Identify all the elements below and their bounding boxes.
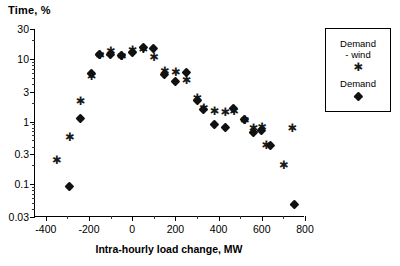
star-marker-icon: ✱ [149, 51, 158, 64]
y-axis-tick [30, 92, 35, 93]
y-axis-minor-tick [32, 131, 35, 132]
x-axis-tick-label: 400 [210, 223, 228, 235]
y-axis-minor-tick [32, 209, 35, 210]
y-axis-minor-tick [32, 103, 35, 104]
x-axis-minor-tick [197, 216, 198, 219]
star-marker-icon: ✱ [76, 95, 85, 108]
legend-item-demand: Demand [326, 78, 390, 102]
x-axis-minor-tick [111, 216, 112, 219]
y-axis-minor-tick [32, 135, 35, 136]
x-axis-title: Intra-hourly load change, MW [34, 243, 304, 255]
y-axis-tick-label: 1 [23, 116, 29, 128]
y-axis-tick-label: 0.1 [14, 178, 29, 190]
y-axis-tick [30, 122, 35, 123]
y-axis-title: Time, % [8, 4, 51, 16]
x-axis-tick [175, 216, 176, 221]
y-axis-minor-tick [32, 140, 35, 141]
x-axis-tick [219, 216, 220, 221]
chart-figure: Time, % 0.030.10.3131030-400-20002004006… [0, 0, 400, 266]
x-axis-tick-label: 800 [296, 223, 314, 235]
plot-area: 0.030.10.3131030-400-2000200400600800✱✱✱… [34, 29, 304, 217]
y-axis-minor-tick [32, 194, 35, 195]
legend-label-demand-wind: Demand - wind [326, 38, 390, 60]
y-axis-tick [30, 184, 35, 185]
x-axis-tick [305, 216, 306, 221]
y-axis-minor-tick [32, 78, 35, 79]
diamond-marker-icon [353, 91, 363, 101]
y-axis-minor-tick [32, 147, 35, 148]
y-axis-tick-label: 0.3 [14, 148, 29, 160]
star-marker-icon: ✱ [354, 61, 363, 74]
diamond-marker-icon [289, 200, 299, 210]
y-axis-minor-tick [32, 165, 35, 166]
x-axis-minor-tick [154, 216, 155, 219]
x-axis-tick-label: 600 [253, 223, 271, 235]
diamond-marker-icon [76, 114, 86, 124]
x-axis-tick-label: 200 [167, 223, 185, 235]
y-axis-minor-tick [32, 62, 35, 63]
y-axis-minor-tick [32, 84, 35, 85]
y-axis-tick-label: 0.03 [9, 211, 29, 223]
y-axis-tick [30, 154, 35, 155]
chart-legend: Demand - wind ✱ Demand [325, 28, 391, 112]
y-axis-minor-tick [32, 69, 35, 70]
x-axis-tick-label: 0 [129, 223, 135, 235]
star-marker-icon: ✱ [52, 154, 61, 167]
legend-label-demand: Demand [326, 78, 390, 89]
legend-marker-star: ✱ [326, 61, 390, 73]
legend-marker-diamond [326, 90, 390, 102]
y-axis-minor-tick [32, 124, 35, 125]
y-axis-tick-label: 3 [23, 86, 29, 98]
x-axis-tick [262, 216, 263, 221]
star-marker-icon: ✱ [279, 159, 288, 172]
x-axis-tick-label: -400 [35, 223, 56, 235]
star-marker-icon: ✱ [288, 122, 297, 135]
diamond-marker-icon [65, 182, 75, 192]
y-axis-tick [30, 59, 35, 60]
x-axis-tick [132, 216, 133, 221]
x-axis-tick [89, 216, 90, 221]
y-axis-tick [30, 217, 35, 218]
y-axis-tick [30, 29, 35, 30]
legend-item-demand-wind: Demand - wind ✱ [326, 38, 390, 73]
x-axis-tick-label: -200 [78, 223, 99, 235]
x-axis-minor-tick [240, 216, 241, 219]
x-axis-minor-tick [283, 216, 284, 219]
y-axis-minor-tick [32, 40, 35, 41]
y-axis-minor-tick [32, 190, 35, 191]
y-axis-minor-tick [32, 65, 35, 66]
y-axis-minor-tick [32, 203, 35, 204]
y-axis-tick-label: 10 [17, 53, 29, 65]
y-axis-minor-tick [32, 128, 35, 129]
x-axis-tick [46, 216, 47, 221]
diamond-marker-icon [209, 120, 219, 130]
star-marker-icon: ✱ [210, 105, 219, 118]
star-marker-icon: ✱ [65, 131, 74, 144]
diamond-marker-icon [220, 123, 230, 133]
y-axis-tick-label: 30 [17, 23, 29, 35]
y-axis-minor-tick [32, 198, 35, 199]
y-axis-minor-tick [32, 187, 35, 188]
x-axis-minor-tick [67, 216, 68, 219]
y-axis-minor-tick [32, 73, 35, 74]
